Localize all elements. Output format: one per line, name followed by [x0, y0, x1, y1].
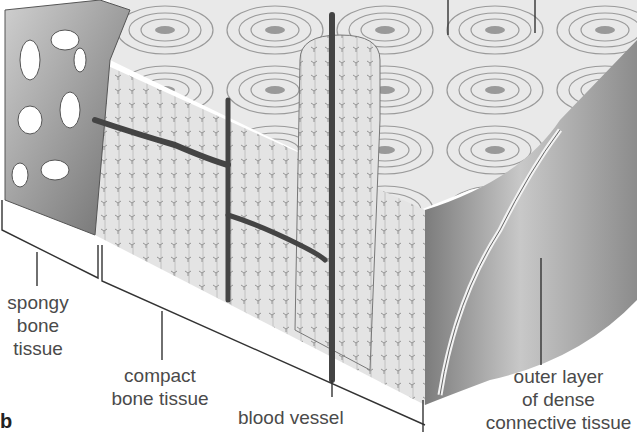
panel-label: b	[0, 410, 12, 432]
osteon-cylinder	[295, 35, 380, 370]
label-spongy-bone-tissue: spongy bone tissue	[0, 291, 76, 360]
label-blood-vessel: blood vessel	[238, 406, 428, 429]
label-outer-layer-dense-connective-tissue: outer layer of dense connective tissue	[480, 365, 637, 432]
label-compact-bone-tissue: compact bone tissue	[100, 364, 220, 410]
